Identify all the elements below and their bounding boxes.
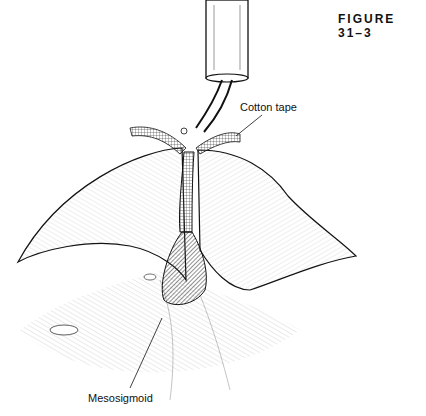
surgical-illustration <box>0 0 426 416</box>
mesentery-fan <box>20 270 300 400</box>
cotton-tape-label: Cotton tape <box>240 101 297 113</box>
mesosigmoid-label: Mesosigmoid <box>88 392 153 404</box>
bowel-right-lobe <box>198 150 356 290</box>
bowel-left-lobe <box>18 148 186 280</box>
cotton-tape-leader <box>236 115 262 136</box>
cotton-tape <box>130 127 240 154</box>
